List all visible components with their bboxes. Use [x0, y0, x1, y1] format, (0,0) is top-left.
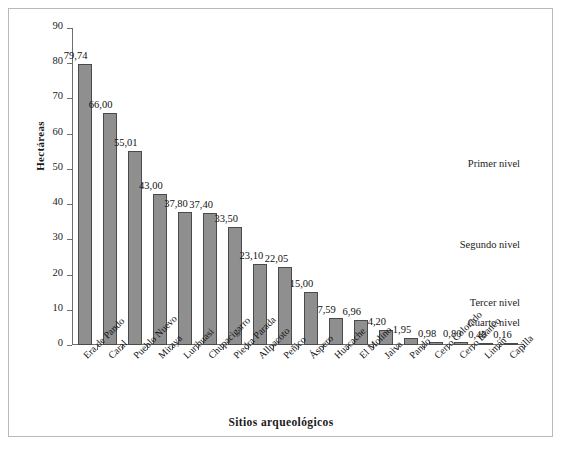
chart-figure: Hectáreas Sitios arqueológicos 010203040…	[0, 0, 562, 455]
y-tick-label: 30	[53, 231, 64, 242]
y-tick-label: 60	[53, 126, 64, 137]
bar	[203, 213, 217, 345]
y-tick: 20	[67, 275, 72, 276]
bar-value-label: 22,05	[255, 253, 297, 264]
x-axis-title: Sitios arqueológicos	[0, 416, 562, 428]
bar-value-label: 15,00	[281, 278, 323, 289]
y-tick: 40	[67, 204, 72, 205]
y-tick: 10	[67, 310, 72, 311]
y-tick-label: 70	[53, 90, 64, 101]
y-tick-label: 50	[53, 161, 64, 172]
y-axis-title: Hectáreas	[34, 76, 46, 216]
y-tick: 70	[67, 98, 72, 99]
bar-value-label: 79,74	[55, 50, 97, 61]
y-tick: 50	[67, 169, 72, 170]
level-annotation: Primer nivel	[400, 158, 520, 169]
plot-area: 0102030405060708090 79,7466,0055,0143,00…	[72, 28, 524, 345]
bar-value-label: 33,50	[205, 213, 247, 224]
bar-value-label: 66,00	[80, 99, 122, 110]
level-annotation: Tercer nivel	[400, 297, 520, 308]
y-tick-label: 90	[53, 20, 64, 31]
y-tick-label: 10	[53, 302, 64, 313]
level-annotation: Cuarto nivel	[400, 317, 520, 328]
y-tick: 80	[67, 63, 72, 64]
y-tick: 90	[67, 28, 72, 29]
bar-value-label: 55,01	[105, 137, 147, 148]
y-axis-line	[72, 28, 73, 345]
bar-value-label: 37,40	[180, 199, 222, 210]
y-tick: 0	[67, 345, 72, 346]
level-annotation: Segundo nivel	[400, 239, 520, 250]
y-tick-label: 20	[53, 267, 64, 278]
bar-value-label: 43,00	[130, 180, 172, 191]
y-tick: 60	[67, 134, 72, 135]
y-tick-label: 0	[58, 337, 63, 348]
y-tick: 30	[67, 239, 72, 240]
y-tick-label: 40	[53, 196, 64, 207]
bar	[304, 292, 318, 345]
bar	[178, 212, 192, 345]
